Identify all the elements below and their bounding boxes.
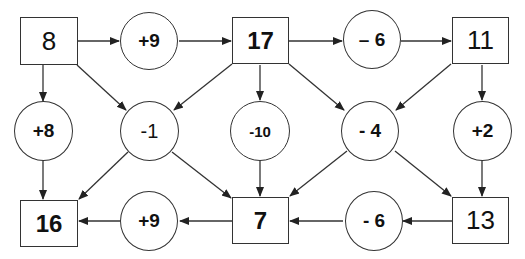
circle-label: -1 (141, 120, 159, 143)
box-label: 17 (247, 27, 274, 55)
box-label: 11 (467, 25, 494, 56)
circle-label: -10 (249, 123, 271, 140)
operation-circle-plus2: +2 (453, 101, 512, 161)
operation-circle-minus6-top: – 6 (343, 10, 401, 69)
arrow-minus1-to-16 (79, 152, 128, 199)
operation-circle-plus9-bottom: +9 (120, 191, 178, 251)
arrow-11-to-minus4 (396, 64, 451, 110)
number-box-11: 11 (452, 17, 509, 64)
arrow-minus1-to-7 (172, 152, 231, 198)
number-box-8: 8 (20, 17, 78, 65)
circle-label: +2 (472, 120, 494, 142)
arrow-minus4-to-13 (395, 151, 451, 196)
circle-label: - 6 (363, 210, 385, 232)
operation-circle-minus6-bottom: - 6 (345, 191, 403, 251)
circle-label: +9 (138, 210, 160, 232)
circle-label: - 4 (359, 120, 381, 142)
arrow-minus4-to-7 (290, 151, 347, 196)
operation-circle-minus1: -1 (120, 101, 179, 161)
box-label: 16 (36, 210, 63, 238)
arrow-17-to-minus4 (289, 64, 344, 110)
arrow-17-to-minus1 (174, 64, 232, 110)
operation-circle-plus8: +8 (14, 101, 73, 161)
arrow-8-to-minus1 (77, 65, 126, 110)
number-box-17: 17 (232, 17, 289, 64)
operation-circle-plus9-top: +9 (120, 12, 178, 70)
box-label: 13 (466, 205, 495, 236)
circle-label: – 6 (359, 29, 385, 51)
number-box-13: 13 (452, 197, 509, 244)
operation-circle-minus10: -10 (230, 101, 290, 161)
operation-circle-minus4: - 4 (341, 101, 399, 161)
circle-label: +8 (33, 120, 55, 142)
number-box-16: 16 (20, 200, 78, 247)
box-label: 7 (254, 207, 267, 235)
number-box-7: 7 (232, 197, 289, 244)
box-label: 8 (42, 26, 56, 57)
circle-label: +9 (138, 30, 160, 52)
